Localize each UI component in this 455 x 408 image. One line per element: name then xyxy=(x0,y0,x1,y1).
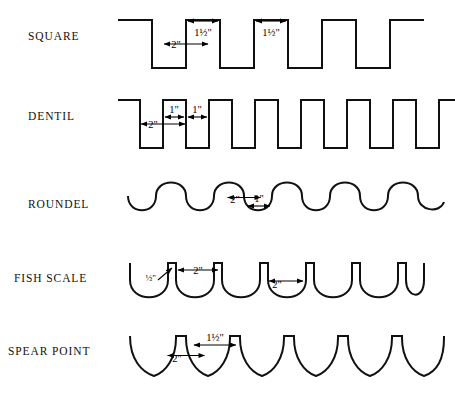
row-roundel: ROUNDEL 2" 1" xyxy=(28,183,444,211)
profile-patterns-diagram: SQUARE 2" 1½" 1½" DENTIL 2" 1" xyxy=(0,0,455,408)
dim-dentil-width-1-label: 1" xyxy=(169,104,179,115)
dim-square-width-2-label: 1½" xyxy=(262,27,279,38)
dim-fish-scale-width-label: 2" xyxy=(193,265,203,276)
dim-fish-scale-tip-label: ½" xyxy=(146,273,157,283)
dim-square-width-2: 1½" xyxy=(256,21,286,38)
dim-square-width-1-label: 1½" xyxy=(194,27,211,38)
dim-spear-point-width-label: 1½" xyxy=(206,332,223,343)
dim-fish-scale-depth-label: 2" xyxy=(272,279,282,290)
dim-roundel-width-label: 1" xyxy=(254,193,264,204)
row-fish-scale: FISH SCALE ½" 2" 2" xyxy=(14,263,424,297)
dim-spear-point-depth: 2" xyxy=(168,353,205,364)
dim-dentil-depth-label: 2" xyxy=(148,119,158,130)
dim-roundel-width: 1" xyxy=(248,193,270,206)
row-label-dentil: DENTIL xyxy=(28,110,75,122)
dim-spear-point-depth-label: 2" xyxy=(172,353,182,364)
dim-roundel-depth-label: 2" xyxy=(230,194,240,205)
row-label-fish-scale: FISH SCALE xyxy=(14,272,87,284)
row-label-roundel: ROUNDEL xyxy=(28,198,89,210)
row-label-square: SQUARE xyxy=(28,30,79,42)
dim-dentil-width-1: 1" xyxy=(165,104,184,117)
dim-fish-scale-depth: 2" xyxy=(269,279,303,290)
dim-square-depth-label: 2" xyxy=(171,39,181,50)
dim-square-width-1: 1½" xyxy=(188,21,218,38)
roundel-profile xyxy=(128,183,444,211)
row-square: SQUARE 2" 1½" 1½" xyxy=(28,20,424,68)
dim-dentil-width-2: 1" xyxy=(188,104,207,117)
row-spear-point: SPEAR POINT 2" 1½" xyxy=(8,332,444,376)
row-label-spear-point: SPEAR POINT xyxy=(8,345,90,357)
dim-fish-scale-width: 2" xyxy=(178,265,218,276)
dim-dentil-width-2-label: 1" xyxy=(192,104,202,115)
row-dentil: DENTIL 2" 1" 1" xyxy=(28,100,455,148)
